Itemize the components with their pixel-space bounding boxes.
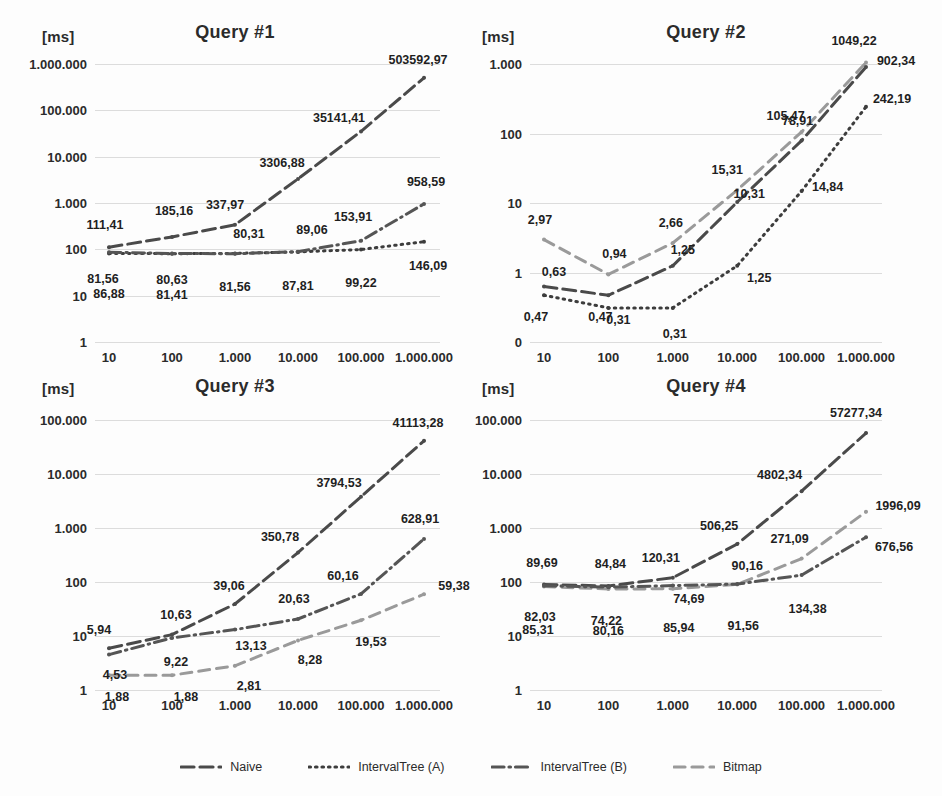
legend-swatch-icon [180, 762, 222, 772]
data-point [735, 542, 739, 546]
chart-title-query-1: Query #1 [0, 22, 470, 43]
data-label: 20,63 [278, 592, 309, 606]
data-label: 0,47 [524, 310, 548, 324]
y-axis-tick: 10 [73, 288, 87, 303]
figure-legend: NaiveIntervalTree (A)IntervalTree (B)Bit… [0, 752, 942, 782]
y-axis-tick: 10.000 [482, 467, 522, 482]
data-point [422, 240, 426, 244]
legend-label: IntervalTree (B) [541, 760, 627, 774]
data-label: 10,31 [734, 187, 765, 201]
data-label: 99,22 [345, 276, 376, 290]
data-point [606, 272, 610, 276]
data-label: 74,69 [673, 592, 704, 606]
data-label: 82,03 [524, 610, 555, 624]
data-point [671, 584, 675, 588]
data-point [107, 245, 111, 249]
data-label: 8,28 [298, 653, 322, 667]
data-point [864, 65, 868, 69]
data-point [359, 129, 363, 133]
data-point [422, 76, 426, 80]
data-point [542, 284, 546, 288]
chart-panel-query-4: [ms] Query #4 100.00010.0001.00010010110… [470, 372, 942, 732]
data-label: 1,25 [747, 271, 771, 285]
data-label: 0,63 [542, 265, 566, 279]
x-axis-tick: 100 [598, 350, 620, 365]
data-point [800, 489, 804, 493]
x-axis-tick: 10.000 [278, 698, 318, 713]
data-point [606, 585, 610, 589]
y-axis-tick: 10 [73, 629, 87, 644]
x-axis-tick: 1.000.000 [395, 698, 453, 713]
plot-area-query-2: 1.0001001010101001.00010.000100.0001.000… [530, 64, 882, 342]
data-label: 59,38 [438, 579, 469, 593]
data-label: 2,66 [659, 216, 683, 230]
y-axis-tick: 10.000 [47, 149, 87, 164]
data-label: 9,22 [164, 655, 188, 669]
data-point [542, 238, 546, 242]
data-point [864, 105, 868, 109]
legend-item-naive[interactable]: Naive [180, 760, 262, 774]
data-point [296, 250, 300, 254]
data-label: 19,53 [355, 635, 386, 649]
y-axis-tick: 100 [65, 242, 87, 257]
chart-grid: [ms] Query #1 1.000.000100.00010.0001.00… [0, 0, 942, 752]
data-point [296, 177, 300, 181]
x-axis-tick: 1.000.000 [395, 350, 453, 365]
y-axis-tick: 1 [80, 683, 87, 698]
data-label: 958,59 [407, 175, 445, 189]
y-axis-tick: 1.000 [489, 521, 522, 536]
data-point [422, 592, 426, 596]
series-lines [95, 64, 440, 342]
data-label: 337,97 [206, 198, 244, 212]
x-axis-tick: 10.000 [717, 698, 757, 713]
x-axis-tick: 1.000 [219, 350, 252, 365]
data-point [800, 573, 804, 577]
x-axis-tick: 10.000 [278, 350, 318, 365]
series-line-naive [544, 433, 866, 586]
data-label: 81,56 [219, 280, 250, 294]
data-label: 41113,28 [393, 416, 444, 430]
data-point [233, 602, 237, 606]
data-point [359, 618, 363, 622]
data-point [800, 189, 804, 193]
data-label: 134,38 [788, 602, 826, 616]
data-label: 1996,09 [875, 499, 920, 513]
y-axis-tick: 100.000 [475, 413, 522, 428]
data-label: 35141,41 [313, 111, 365, 125]
data-label: 0,31 [606, 313, 630, 327]
data-point [422, 202, 426, 206]
data-point [735, 582, 739, 586]
data-point [422, 439, 426, 443]
data-point [107, 653, 111, 657]
gridline [95, 690, 440, 691]
data-point [864, 535, 868, 539]
legend-item-intervaltree-a[interactable]: IntervalTree (A) [308, 760, 444, 774]
data-label: 902,34 [877, 54, 915, 68]
data-label: 503592,97 [388, 53, 447, 67]
x-axis-tick: 10 [537, 698, 551, 713]
data-label: 185,16 [155, 204, 193, 218]
data-label: 90,16 [732, 559, 763, 573]
x-axis-tick: 100.000 [338, 350, 385, 365]
data-label: 57277,34 [830, 406, 882, 420]
series-line-naive [109, 441, 424, 648]
data-label: 2,97 [528, 213, 552, 227]
legend-swatch-icon [491, 762, 533, 772]
data-label: 4802,34 [757, 468, 802, 482]
y-axis-tick: 1.000 [489, 57, 522, 72]
data-label: 628,91 [401, 512, 439, 526]
data-label: 146,09 [409, 259, 447, 273]
legend-label: IntervalTree (A) [358, 760, 444, 774]
y-axis-tick: 100 [65, 575, 87, 590]
data-point [170, 636, 174, 640]
legend-item-intervaltree-b[interactable]: IntervalTree (B) [491, 760, 627, 774]
y-axis-tick: 1.000.000 [29, 57, 87, 72]
data-label: 15,31 [712, 163, 743, 177]
x-axis-tick: 1.000 [219, 698, 252, 713]
chart-panel-query-2: [ms] Query #2 1.0001001010101001.00010.0… [470, 0, 942, 372]
data-point [296, 638, 300, 642]
data-label: 84,84 [595, 557, 626, 571]
legend-item-bitmap[interactable]: Bitmap [673, 760, 762, 774]
x-axis-tick: 1.000.000 [837, 350, 895, 365]
y-axis-tick: 1 [515, 683, 522, 698]
